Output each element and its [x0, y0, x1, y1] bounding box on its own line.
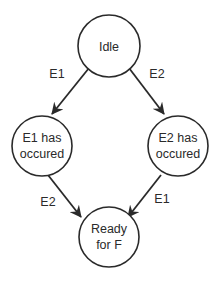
state-label-e2-line2: occured: [156, 147, 201, 161]
edge-label-e2-ready: E1: [154, 192, 169, 206]
state-label-e1-line2: occured: [20, 147, 65, 161]
state-node-e2-has-occured: E2 has occured: [148, 116, 208, 176]
state-label-ready-line1: Ready: [91, 222, 128, 236]
edge-idle-to-e2: E2: [129, 67, 165, 114]
edge-e2-to-ready: E1: [128, 175, 170, 217]
edge-label-idle-e1: E1: [49, 67, 64, 81]
state-label-idle: Idle: [99, 40, 119, 54]
state-label-e2-line1: E2 has: [159, 131, 198, 145]
state-node-ready-for-f: Ready for F: [79, 207, 139, 267]
edge-idle-to-e1: E1: [49, 67, 89, 114]
state-label-e1-line1: E1 has: [23, 131, 62, 145]
edge-e1-to-ready: E2: [40, 175, 81, 217]
edge-label-e1-ready: E2: [40, 195, 55, 209]
state-label-ready-line2: for F: [96, 238, 122, 252]
state-node-idle: Idle: [78, 15, 140, 77]
state-node-e1-has-occured: E1 has occured: [12, 116, 72, 176]
state-diagram: E1 E2 E2 E1 Idle E1 has occured E2 has o…: [0, 0, 220, 285]
edge-label-idle-e2: E2: [149, 67, 164, 81]
